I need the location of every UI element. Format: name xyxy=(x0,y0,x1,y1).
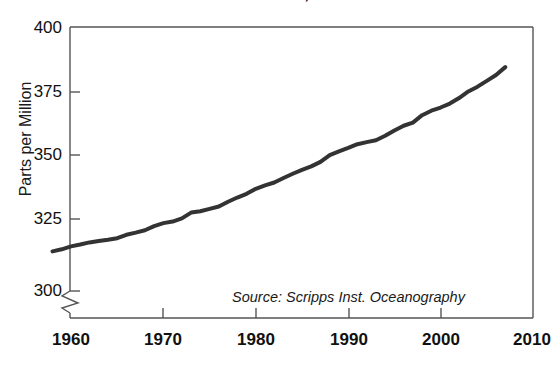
co2-line-chart: of Carbon Dioxide, 1958–2007 Parts per M… xyxy=(0,0,558,365)
co2-data-line xyxy=(53,67,506,251)
plot-area xyxy=(0,0,558,365)
source-annotation: Source: Scripps Inst. Oceanography xyxy=(232,289,465,305)
y-axis-break-icon xyxy=(62,291,78,313)
x-axis-ticks xyxy=(163,308,441,318)
y-axis-ticks xyxy=(70,92,80,291)
